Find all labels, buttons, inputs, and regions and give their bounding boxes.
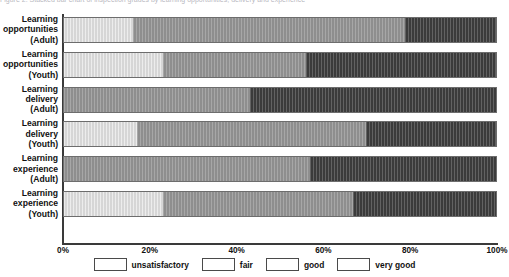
bar-segment-good bbox=[133, 18, 405, 42]
x-axis-tick-label: 80% bbox=[402, 246, 418, 255]
x-axis-tick-label: 20% bbox=[142, 246, 158, 255]
legend-label: good bbox=[304, 260, 324, 270]
bar-segment-good bbox=[163, 53, 306, 77]
legend-item-good[interactable]: good bbox=[266, 258, 324, 271]
x-axis-tick-label: 100% bbox=[487, 246, 508, 255]
legend-label: very good bbox=[375, 260, 415, 270]
legend-item-verygood[interactable]: very good bbox=[337, 258, 415, 271]
bar-segment-verygood bbox=[250, 88, 496, 112]
legend-label: unsatisfactory bbox=[132, 260, 189, 270]
figure-caption-clipped: Figure 2. Stacked bar chart of inspectio… bbox=[0, 0, 509, 7]
x-axis-tick-label: 0% bbox=[57, 246, 69, 255]
y-axis-category-label: Learning delivery (Youth) bbox=[0, 118, 58, 149]
bar-row bbox=[63, 52, 497, 78]
bar-segment-fair bbox=[64, 122, 137, 146]
figure-caption-text: Figure 2. Stacked bar chart of inspectio… bbox=[0, 0, 509, 4]
legend-swatch-fair bbox=[202, 258, 235, 271]
legend-swatch-unsatisfactory bbox=[94, 258, 127, 271]
bar-segment-fair bbox=[64, 53, 163, 77]
bar-row bbox=[63, 121, 497, 147]
y-axis-category-label: Learning delivery (Adult) bbox=[0, 84, 58, 115]
legend-label: fair bbox=[240, 260, 253, 270]
x-axis-line bbox=[62, 243, 498, 245]
bar-segment-good bbox=[137, 122, 366, 146]
bar-row bbox=[63, 17, 497, 43]
bar-row bbox=[63, 156, 497, 182]
legend-swatch-verygood bbox=[337, 258, 370, 271]
x-axis-tick-label: 60% bbox=[315, 246, 331, 255]
stacked-bar-chart: Figure 2. Stacked bar chart of inspectio… bbox=[0, 0, 509, 277]
bar-segment-good bbox=[163, 192, 353, 216]
bar-segment-fair bbox=[64, 18, 133, 42]
legend-item-unsatisfactory[interactable]: unsatisfactory bbox=[94, 258, 189, 271]
bar-segment-good bbox=[64, 88, 250, 112]
bar-row bbox=[63, 191, 497, 217]
legend-swatch-good bbox=[266, 258, 299, 271]
legend-item-fair[interactable]: fair bbox=[202, 258, 253, 271]
bar-segment-verygood bbox=[405, 18, 496, 42]
bar-segment-verygood bbox=[306, 53, 496, 77]
y-axis-category-label: Learning opportunities (Adult) bbox=[0, 14, 58, 45]
y-axis-category-label: Learning experience (Adult) bbox=[0, 153, 58, 184]
bar-row bbox=[63, 87, 497, 113]
bar-segment-good bbox=[64, 157, 310, 181]
bar-segment-verygood bbox=[366, 122, 496, 146]
bar-segment-verygood bbox=[353, 192, 496, 216]
y-axis-category-label: Learning opportunities (Youth) bbox=[0, 49, 58, 80]
bar-segment-fair bbox=[64, 192, 163, 216]
chart-legend: unsatisfactoryfairgoodvery good bbox=[0, 258, 509, 271]
bar-segment-verygood bbox=[310, 157, 496, 181]
x-axis-tick-label: 40% bbox=[228, 246, 244, 255]
y-axis-category-label: Learning experience (Youth) bbox=[0, 188, 58, 219]
